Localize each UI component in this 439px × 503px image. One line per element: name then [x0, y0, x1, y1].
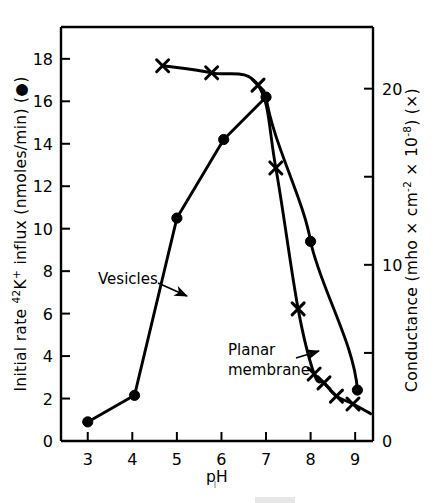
x-tick-label: 6 [216, 450, 226, 469]
vesicles-datapoint [306, 236, 316, 246]
vesicles-datapoint [219, 134, 229, 144]
x-tick-label: 4 [127, 450, 137, 469]
left-tick-label: 18 [33, 50, 53, 69]
scan-artifact-caption [255, 497, 295, 503]
scan-artifact [214, 481, 216, 488]
x-axis-title: pH [206, 468, 228, 486]
x-tick-label: 8 [306, 450, 316, 469]
left-tick-label: 0 [43, 432, 53, 451]
vesicles-label-text: Vesicles [98, 270, 158, 288]
left-tick-label: 10 [33, 220, 53, 239]
left-tick-label: 4 [43, 347, 53, 366]
planar-membrane-label-line2: membrane [228, 361, 310, 379]
vesicles-datapoint [129, 390, 139, 400]
right-tick-label: 20 [382, 80, 402, 99]
left-tick-label: 6 [43, 305, 53, 324]
vesicles-datapoint [172, 213, 182, 223]
x-tick-label: 3 [83, 450, 93, 469]
left-tick-label: 8 [43, 262, 53, 281]
left-tick-label: 16 [33, 92, 53, 111]
chart-svg: 024681012141618 01020 3456789 VesiclesPl… [0, 0, 439, 503]
y-left-axis-title-text: Initial rate 42K+ influx (nmoles/min) (●… [10, 76, 30, 391]
x-axis-title-text: pH [206, 468, 228, 486]
x-tick-label: 9 [350, 450, 360, 469]
x-tick-label: 5 [172, 450, 182, 469]
planar-membrane-label-line1: Planar [228, 341, 276, 359]
left-tick-label: 14 [33, 135, 53, 154]
x-tick-label: 7 [261, 450, 271, 469]
vesicles-datapoint [352, 385, 362, 395]
right-tick-label: 0 [382, 432, 392, 451]
y-left-axis-title: Initial rate 42K+ influx (nmoles/min) (●… [10, 76, 30, 391]
vesicles-datapoint [83, 417, 93, 427]
left-tick-label: 2 [43, 390, 53, 409]
figure-panel: 024681012141618 01020 3456789 VesiclesPl… [0, 0, 439, 503]
left-tick-label: 12 [33, 177, 53, 196]
right-tick-label: 10 [382, 256, 402, 275]
